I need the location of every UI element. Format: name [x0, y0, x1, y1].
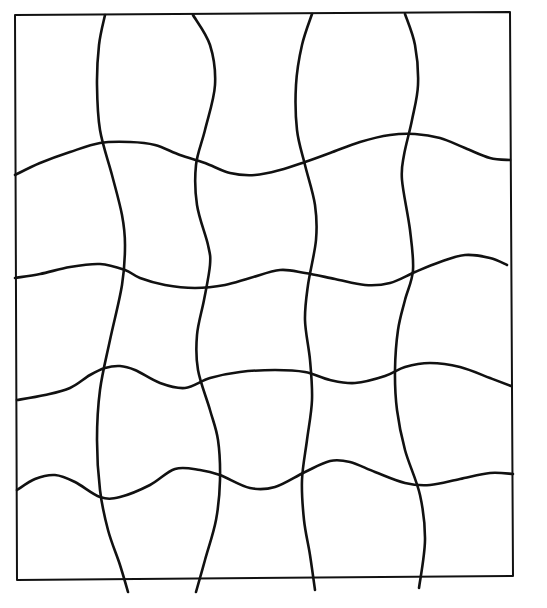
wavy-grid-diagram: [0, 0, 547, 608]
background: [0, 0, 547, 608]
